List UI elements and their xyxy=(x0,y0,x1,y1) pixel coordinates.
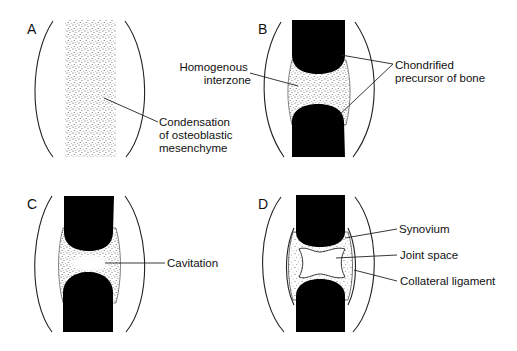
mesenchyme-condensation xyxy=(65,20,116,157)
panel-c: C Cavitation xyxy=(27,196,218,332)
outer-contour-left xyxy=(35,21,53,157)
label-homogenous-interzone: Homogenous interzone xyxy=(179,61,251,86)
label-condensation: Condensation of osteoblastic mesenchyme xyxy=(159,116,236,154)
joint-space xyxy=(299,248,345,278)
panel-letter-c: C xyxy=(27,196,37,212)
label-synovium: Synovium xyxy=(399,223,450,235)
outer-contour-right xyxy=(353,22,374,157)
outer-contour-right xyxy=(353,197,374,332)
panel-d: D Synovium Joint space Collateral ligame… xyxy=(258,195,496,332)
bone-top xyxy=(296,195,345,247)
label-cavitation: Cavitation xyxy=(167,257,218,269)
panel-letter-d: D xyxy=(258,196,268,212)
panel-a: A Condensation of osteoblastic mesenchym… xyxy=(27,20,236,157)
bone-bottom xyxy=(296,279,345,332)
label-joint-space: Joint space xyxy=(400,249,458,261)
panel-letter-a: A xyxy=(27,21,37,37)
chondrified-bone-top xyxy=(292,20,345,74)
label-chondrified-precursor: Chondrified precursor of bone xyxy=(395,59,485,84)
outer-contour-right xyxy=(125,196,145,332)
leader-collateral-ligament xyxy=(354,270,397,281)
panel-letter-b: B xyxy=(258,21,267,37)
joint-development-figure: A Condensation of osteoblastic mesenchym… xyxy=(0,0,517,351)
bone-bottom xyxy=(63,272,113,332)
leader-precursor-top xyxy=(341,55,393,64)
outer-contour-left xyxy=(263,197,284,332)
leader-synovium xyxy=(345,229,397,238)
outer-contour-right xyxy=(125,21,145,157)
outer-contour-left xyxy=(35,196,52,332)
bone-top xyxy=(64,196,114,251)
chondrified-bone-bottom xyxy=(292,104,345,157)
label-collateral-ligament: Collateral ligament xyxy=(400,275,496,287)
outer-contour-left xyxy=(264,22,284,157)
